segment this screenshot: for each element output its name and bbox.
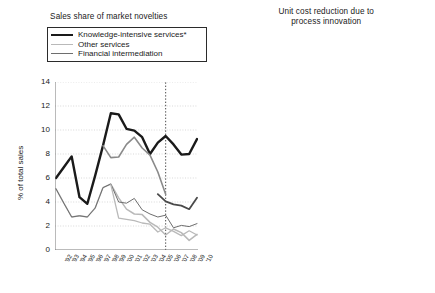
figure-root: Sales share of market novelties Knowledg…: [0, 0, 435, 293]
right-chart-title: Unit cost reduction due to process innov…: [218, 7, 435, 27]
legend-item-financial-intermediation: Financial intermediation: [51, 49, 202, 59]
y-tick-label: 0: [34, 245, 50, 254]
y-tick-label: 14: [34, 77, 50, 86]
y-tick-label: 4: [34, 197, 50, 206]
legend-line-swatch-icon: [51, 34, 73, 36]
y-tick-label: 2: [34, 221, 50, 230]
legend-label: Financial intermediation: [78, 49, 163, 58]
y-tick-label: 8: [34, 149, 50, 158]
legend-label: Other services: [78, 40, 130, 49]
left-plot-svg: [55, 82, 198, 250]
left-chart-legend: Knowledge-intensive services* Other serv…: [47, 27, 207, 62]
left-y-axis-label: % of total sales: [16, 146, 25, 200]
right-chart-title-line2: process innovation: [218, 17, 435, 27]
chart-panel-right: Unit cost reduction due to process innov…: [218, 0, 435, 293]
legend-label: Knowledge-intensive services*: [78, 30, 187, 39]
y-tick-label: 6: [34, 173, 50, 182]
legend-item-other-services: Other services: [51, 40, 202, 50]
y-tick-label: 10: [34, 125, 50, 134]
left-chart-title: Sales share of market novelties: [0, 12, 218, 22]
right-chart-title-line1: Unit cost reduction due to: [218, 7, 435, 17]
left-plot-area: [55, 82, 198, 250]
y-tick-label: 12: [34, 101, 50, 110]
x-tick-label: '10: [204, 253, 214, 263]
legend-item-knowledge-intensive-services: Knowledge-intensive services*: [51, 30, 202, 40]
legend-line-swatch-icon: [51, 44, 73, 46]
chart-panel-left: Sales share of market novelties Knowledg…: [0, 0, 218, 293]
legend-line-swatch-icon: [51, 53, 73, 54]
